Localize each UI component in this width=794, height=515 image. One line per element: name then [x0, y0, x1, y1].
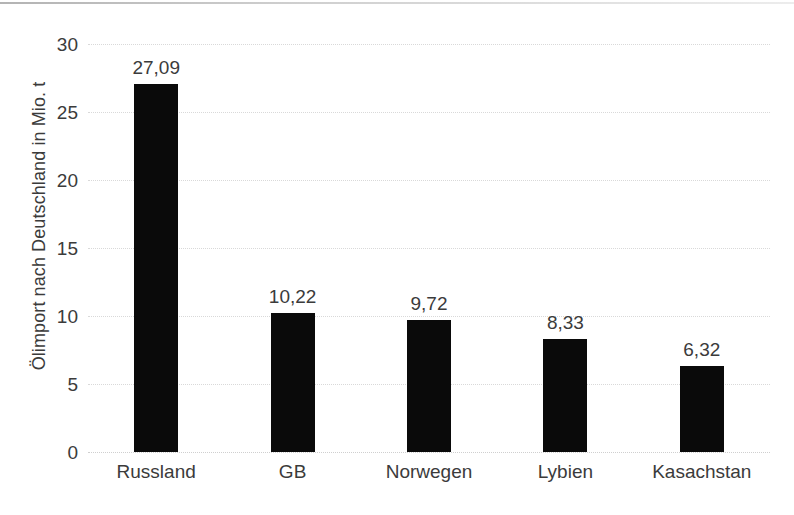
bar-value-label-gb: 10,22	[269, 287, 317, 306]
bar-kasachstan[interactable]	[680, 366, 724, 452]
gridline-0	[88, 452, 770, 454]
bar-slot: 8,33	[543, 44, 587, 452]
bar-value-label-norwegen: 9,72	[411, 294, 448, 313]
x-tick-label-lybien: Lybien	[538, 460, 593, 484]
bar-norwegen[interactable]	[407, 320, 451, 452]
y-tick-label-10: 10	[34, 307, 78, 326]
bar-chart: Ölimport nach Deutschland in Mio. t 0510…	[0, 0, 794, 515]
bar-slot: 10,22	[271, 44, 315, 452]
bar-value-label-russland: 27,09	[132, 58, 180, 77]
y-tick-label-30: 30	[34, 35, 78, 54]
y-tick-label-20: 20	[34, 171, 78, 190]
bar-slot: 9,72	[407, 44, 451, 452]
y-tick-label-0: 0	[34, 443, 78, 462]
y-tick-label-5: 5	[34, 375, 78, 394]
bar-value-label-kasachstan: 6,32	[683, 340, 720, 359]
bar-gb[interactable]	[271, 313, 315, 452]
bar-value-label-lybien: 8,33	[547, 313, 584, 332]
plot-area: 27,0910,229,728,336,32	[88, 44, 770, 452]
bar-slot: 6,32	[680, 44, 724, 452]
y-tick-label-25: 25	[34, 103, 78, 122]
x-tick-label-kasachstan: Kasachstan	[652, 460, 751, 484]
bar-russland[interactable]	[134, 84, 178, 452]
x-axis-tick-labels: RusslandGBNorwegenLybienKasachstan	[88, 460, 770, 490]
bar-slot: 27,09	[134, 44, 178, 452]
x-tick-label-russland: Russland	[117, 460, 196, 484]
x-tick-label-norwegen: Norwegen	[386, 460, 473, 484]
x-tick-label-gb: GB	[279, 460, 306, 484]
y-tick-label-15: 15	[34, 239, 78, 258]
bar-lybien[interactable]	[543, 339, 587, 452]
